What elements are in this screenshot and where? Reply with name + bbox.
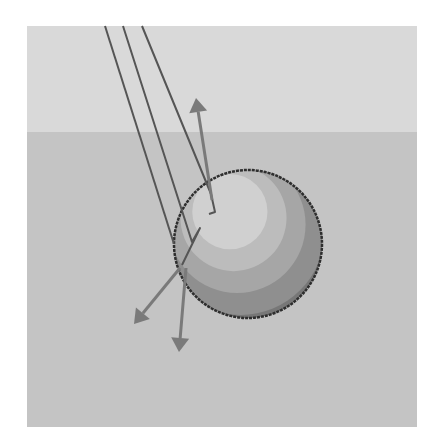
- sphere-ray-diagram: [0, 0, 439, 446]
- sky-region: [27, 26, 417, 132]
